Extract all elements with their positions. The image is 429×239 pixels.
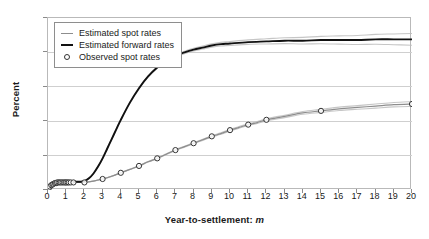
x-axis-label: Year-to-settlement: m (0, 214, 429, 225)
x-tick-mark (174, 189, 175, 193)
x-tick-mark (393, 189, 394, 193)
x-tick-label: 9 (201, 192, 221, 201)
x-tick-label: 1 (55, 192, 75, 201)
x-tick-label: 15 (310, 192, 330, 201)
x-tick-label: 6 (146, 192, 166, 201)
x-tick-label: 11 (237, 192, 257, 201)
thin-line-swatch (61, 33, 73, 34)
x-tick-mark (302, 189, 303, 193)
observed-markers (48, 101, 412, 190)
x-tick-label: 13 (274, 192, 294, 201)
x-tick-label: 19 (383, 192, 403, 201)
chart-figure: Percent 0.00.51.01.52.02.5 0123456789101… (0, 0, 429, 239)
x-tick-label: 4 (110, 192, 130, 201)
x-tick-label: 2 (73, 192, 93, 201)
x-tick-mark (102, 189, 103, 193)
legend-item: Observed spot rates (60, 51, 174, 63)
x-tick-mark (265, 189, 266, 193)
x-tick-mark (65, 189, 66, 193)
legend-item-label: Estimated forward rates (79, 39, 174, 51)
y-axis-label: Percent (10, 65, 21, 135)
x-tick-mark (156, 189, 157, 193)
legend-item-label: Estimated spot rates (79, 27, 161, 39)
x-tick-mark (47, 189, 48, 193)
x-tick-label: 12 (255, 192, 275, 201)
chart-legend: Estimated spot ratesEstimated forward ra… (54, 22, 182, 68)
x-tick-label: 5 (128, 192, 148, 201)
x-tick-label: 3 (92, 192, 112, 201)
x-tick-label: 8 (183, 192, 203, 201)
x-tick-label: 18 (365, 192, 385, 201)
legend-item: Estimated forward rates (60, 39, 174, 51)
legend-thin-line-icon (60, 33, 74, 34)
x-tick-mark (320, 189, 321, 193)
x-tick-label: 16 (328, 192, 348, 201)
x-tick-mark (284, 189, 285, 193)
x-tick-mark (138, 189, 139, 193)
legend-circle-icon (60, 54, 74, 60)
open-circle-swatch (64, 54, 70, 60)
x-tick-label: 10 (219, 192, 239, 201)
x-axis-label-variable: m (256, 214, 265, 225)
legend-thick-line-icon (60, 44, 74, 47)
x-tick-mark (411, 189, 412, 193)
x-tick-mark (338, 189, 339, 193)
legend-item: Estimated spot rates (60, 27, 174, 39)
x-tick-mark (247, 189, 248, 193)
x-tick-mark (375, 189, 376, 193)
legend-item-label: Observed spot rates (79, 51, 160, 63)
x-tick-mark (356, 189, 357, 193)
x-tick-mark (193, 189, 194, 193)
x-tick-mark (229, 189, 230, 193)
x-tick-mark (120, 189, 121, 193)
thick-line-swatch (61, 44, 73, 47)
x-tick-label: 7 (164, 192, 184, 201)
x-tick-label: 20 (401, 192, 421, 201)
x-tick-label: 17 (346, 192, 366, 201)
x-tick-label: 14 (292, 192, 312, 201)
x-axis-label-text: Year-to-settlement: (165, 214, 253, 225)
x-tick-label: 0 (37, 192, 57, 201)
x-tick-mark (83, 189, 84, 193)
x-tick-mark (211, 189, 212, 193)
